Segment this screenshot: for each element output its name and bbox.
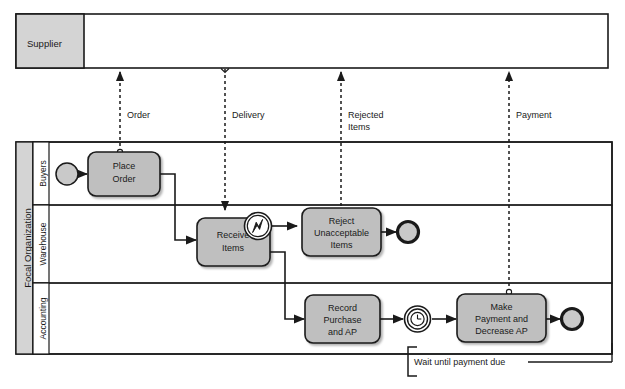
start-event-icon — [56, 163, 78, 185]
task-receive-items-label-line2: Items — [222, 243, 245, 253]
task-place-order-label-line1: Place — [113, 161, 136, 171]
pool-supplier-body — [16, 14, 608, 68]
task-reject-unacceptable-items-label-line1: Reject — [329, 216, 355, 226]
pool-supplier-label: Supplier — [27, 38, 62, 49]
task-make-payment-and-decrease-ap-label-line1: Make — [490, 302, 512, 312]
message-flow-rejected-items-label-line2: Items — [348, 122, 371, 132]
lane-accounting-label: Accounting — [38, 297, 48, 339]
end-event-warehouse-icon — [398, 222, 419, 243]
task-make-payment-and-decrease-ap-label-line2: Payment and — [475, 314, 528, 324]
bpmn-diagram-svg: Supplier Focal Organization Buyers Wareh… — [0, 0, 625, 389]
task-reject-unacceptable-items-label-line3: Items — [330, 240, 353, 250]
annotation-wait-until-payment-due-label: Wait until payment due — [414, 357, 505, 367]
task-record-purchase-and-ap-label-line2: Purchase — [323, 315, 361, 325]
pool-supplier[interactable]: Supplier — [16, 14, 608, 68]
message-flow-payment-label: Payment — [516, 110, 552, 120]
pool-focal-organization-label: Focal Organization — [22, 208, 33, 288]
bpmn-diagram-canvas: Supplier Focal Organization Buyers Wareh… — [0, 0, 625, 389]
start-event-buyers[interactable] — [56, 163, 78, 185]
boundary-error-event-icon[interactable] — [245, 213, 272, 240]
end-event-accounting[interactable] — [562, 309, 583, 330]
task-record-purchase-and-ap-label-line3: and AP — [328, 327, 357, 337]
task-record-purchase-and-ap-label-line1: Record — [328, 303, 357, 313]
message-flow-rejected-items-label-line1: Rejected — [348, 110, 384, 120]
end-event-accounting-icon — [562, 309, 583, 330]
task-receive-items-label-line1: Receive — [217, 230, 250, 240]
message-flow-delivery-label: Delivery — [232, 110, 265, 120]
timer-intermediate-event[interactable] — [405, 306, 431, 332]
task-place-order-label-line2: Order — [112, 174, 135, 184]
lane-warehouse-label: Warehouse — [38, 222, 48, 265]
lane-buyers-label: Buyers — [38, 160, 48, 186]
task-reject-unacceptable-items-label-line2: Unacceptable — [314, 228, 369, 238]
task-make-payment-and-decrease-ap-label-line3: Decrease AP — [475, 326, 528, 336]
message-flow-order-label: Order — [127, 110, 150, 120]
end-event-warehouse[interactable] — [398, 222, 419, 243]
